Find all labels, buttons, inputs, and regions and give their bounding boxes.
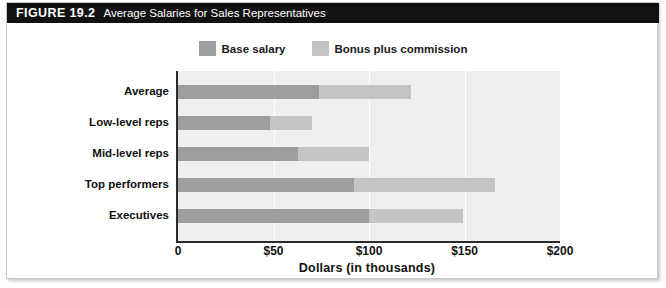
x-tick-50: $50 <box>263 244 283 258</box>
legend-item-bonus-plus-commission: Bonus plus commission <box>312 41 468 56</box>
y-axis-labels: AverageLow-level repsMid-level repsTop p… <box>7 71 169 241</box>
figure-caption-bar: FIGURE 19.2 Average Salaries for Sales R… <box>7 3 659 23</box>
legend-label-bonus-plus-commission: Bonus plus commission <box>335 43 468 55</box>
x-tick-200: $200 <box>547 244 574 258</box>
figure-number: FIGURE 19.2 <box>16 6 95 20</box>
bar-row-low-level-reps <box>178 116 312 130</box>
legend-swatch-bonus-plus-commission <box>312 41 329 56</box>
legend-label-base-salary: Base salary <box>222 43 286 55</box>
y-axis-label-low-level-reps: Low-level reps <box>9 116 169 128</box>
y-axis-label-executives: Executives <box>9 209 169 221</box>
bar-row-average <box>178 85 411 99</box>
y-axis-label-mid-level-reps: Mid-level reps <box>9 147 169 159</box>
bar-segment-bonus-plus-commission <box>369 209 463 223</box>
bar-segment-base-salary <box>178 209 369 223</box>
bar-segment-bonus-plus-commission <box>270 116 312 130</box>
legend-swatch-base-salary <box>199 41 216 56</box>
x-tick-150: $150 <box>451 244 478 258</box>
figure-title: Average Salaries for Sales Representativ… <box>103 7 325 19</box>
x-tick-0: 0 <box>175 244 182 258</box>
figure-frame: FIGURE 19.2 Average Salaries for Sales R… <box>6 2 658 279</box>
bar-segment-base-salary <box>178 85 319 99</box>
bar-segment-bonus-plus-commission <box>319 85 411 99</box>
bar-segment-base-salary <box>178 147 298 161</box>
plot-area <box>176 71 560 243</box>
y-axis-label-top-performers: Top performers <box>9 178 169 190</box>
y-axis-label-average: Average <box>9 85 169 97</box>
figure-container: FIGURE 19.2 Average Salaries for Sales R… <box>0 0 666 288</box>
x-tick-100: $100 <box>356 244 383 258</box>
bar-segment-bonus-plus-commission <box>298 147 369 161</box>
x-axis-title: Dollars (in thousands) <box>176 261 558 275</box>
bar-row-executives <box>178 209 463 223</box>
bar-segment-base-salary <box>178 116 270 130</box>
legend-item-base-salary: Base salary <box>199 41 286 56</box>
x-axis-tick-labels: 0$50$100$150$200 <box>176 244 560 260</box>
bar-row-top-performers <box>178 178 495 192</box>
chart-legend: Base salaryBonus plus commission <box>7 41 659 56</box>
bar-segment-bonus-plus-commission <box>354 178 495 192</box>
gridline-150 <box>465 71 466 241</box>
bar-segment-base-salary <box>178 178 354 192</box>
bar-row-mid-level-reps <box>178 147 369 161</box>
